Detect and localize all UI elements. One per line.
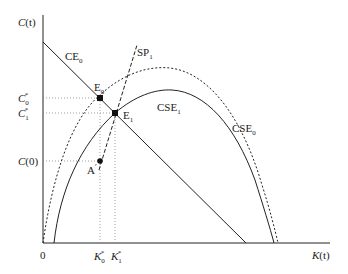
x-tick-k0-star: K0* bbox=[93, 249, 105, 265]
point-e1 bbox=[112, 110, 118, 116]
ce0-line bbox=[43, 42, 246, 243]
cse0-curve bbox=[43, 68, 278, 243]
x-tick-k1-star: K1* bbox=[110, 249, 122, 265]
origin-label: 0 bbox=[40, 249, 46, 261]
cse1-label: CSE1 bbox=[157, 101, 181, 116]
sp1-label: SP1 bbox=[137, 46, 153, 61]
y-axis-label: C(t) bbox=[18, 16, 36, 29]
e1-label: E1 bbox=[123, 109, 134, 124]
x-axis-label: K(t) bbox=[311, 249, 330, 262]
y-tick-c0-star: C0* bbox=[18, 91, 29, 107]
y-tick-c-zero: C(0) bbox=[18, 155, 39, 168]
sp1-line bbox=[99, 45, 137, 170]
economic-diagram: C(t) K(t) 0 C0* C1* C(0) K0* K1* CE0 SP1… bbox=[0, 0, 348, 274]
y-tick-c1-star: C1* bbox=[18, 106, 29, 122]
a-prime-label: A′ bbox=[87, 163, 97, 176]
guide-lines bbox=[43, 98, 115, 243]
cse0-label: CSE0 bbox=[232, 122, 256, 137]
point-a-prime bbox=[97, 158, 103, 164]
ce0-label: CE0 bbox=[65, 50, 83, 65]
